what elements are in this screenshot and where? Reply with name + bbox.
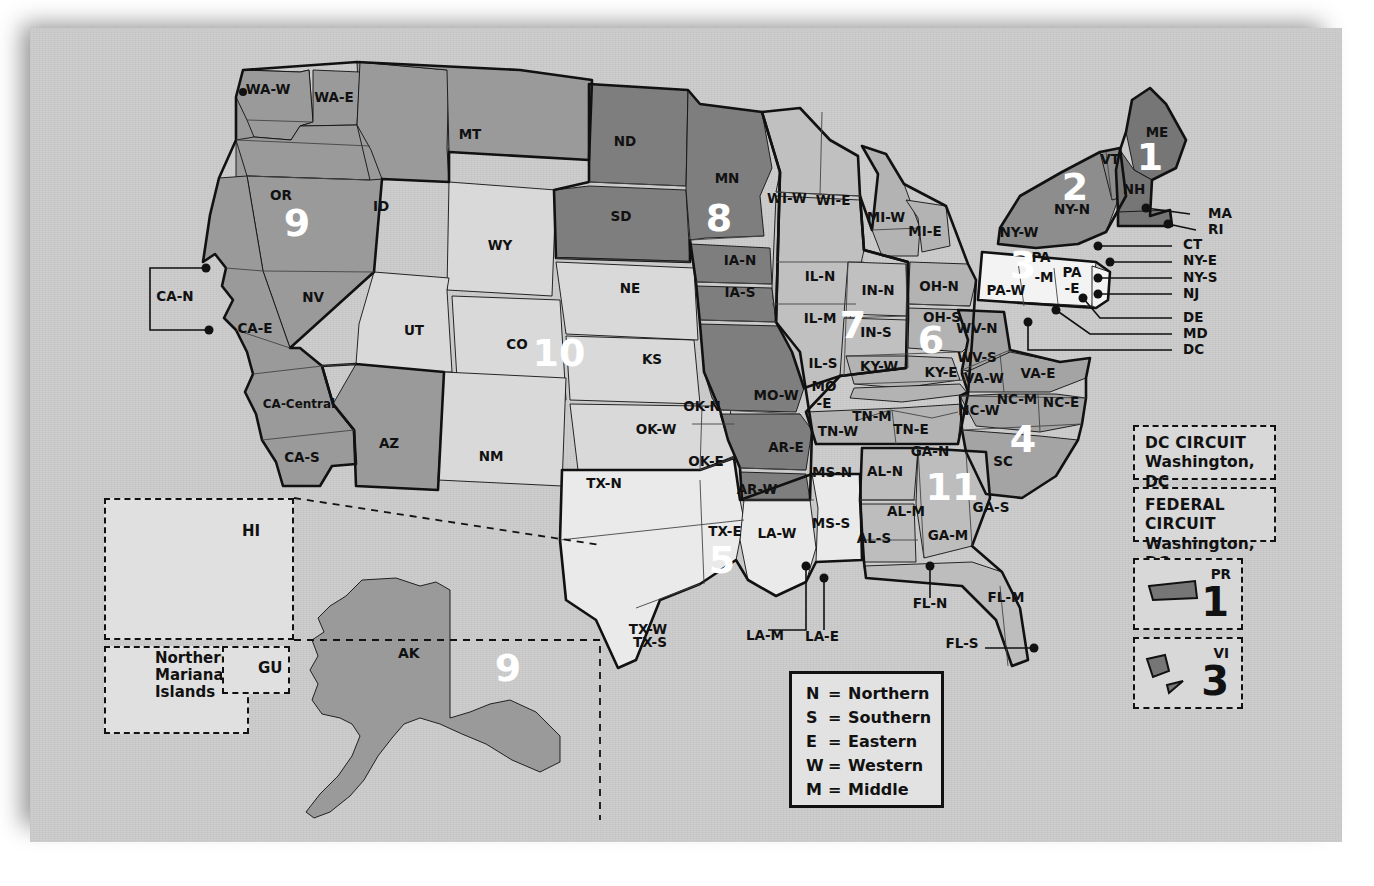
state-ne [556,262,698,340]
district-label-ia-n: IA-N [724,252,756,268]
district-label-wy: WY [488,237,513,253]
district-label-mi-e: MI-E [908,223,941,239]
key-equals: = [828,682,848,706]
district-label-az: AZ [379,435,399,451]
district-label-la-w: LA-W [758,525,797,541]
inset-label-ak: AK [398,645,420,661]
puerto-rico-shape [1145,578,1201,604]
key-word: Western [848,754,923,778]
district-label-ky-e: KY-E [924,364,957,380]
district-label-ok-w: OK-W [636,421,677,437]
callout-label-dc: DC [1183,341,1204,357]
callout-label-ny-s: NY-S [1183,269,1217,285]
district-label-ks: KS [642,351,662,367]
callout-label-ct: CT [1183,236,1203,252]
district-label-wi-e: WI-E [816,192,851,208]
key-row: N = Northern [806,682,941,706]
district-label-vt: VT [1100,151,1120,167]
district-label-oh-n: OH-N [919,278,959,294]
virgin-islands-box: VI 3 [1133,637,1243,709]
district-label-mo: MO [812,378,837,394]
district-label-nc-e: NC-E [1043,394,1079,410]
key-equals: = [828,730,848,754]
district-label-al-m: AL-M [887,503,925,519]
district-label-tx-s: TX-S [633,634,667,650]
district-label-ky-w: KY-W [860,358,898,374]
district-label-nd: ND [614,133,637,149]
district-label-pa: PA [1062,264,1082,280]
abbreviation-key-box: N = Northern S = Southern E = Eastern W … [789,671,944,808]
circuit-number-11-11: 11 [926,465,979,509]
district-label-la-e: LA-E [805,628,839,644]
vi-circuit-number: 3 [1201,661,1229,701]
district-label-il-s: IL-S [809,355,838,371]
district-label-va-e: VA-E [1021,365,1056,381]
key-word: Eastern [848,730,917,754]
district-label-il-m: IL-M [804,310,837,326]
callout-label-de: DE [1183,309,1203,325]
district-label-il-n: IL-N [805,268,836,284]
dc-circuit-box: DC CIRCUIT Washington, DC [1133,425,1276,480]
district-label-ca-n: CA-N [156,288,193,304]
district-label-mo-w: MO-W [753,387,798,403]
district-label-wa-e: WA-E [314,89,354,105]
circuit-number-9-8: 9 [284,201,310,245]
district-label-nh: NH [1123,181,1146,197]
callout-label-layer: MARICTNY-ENY-SNJDEMDDC [1183,205,1232,357]
callout-label-md: MD [1183,325,1208,341]
key-abbr: S [806,706,828,730]
district-label-va-w: VA-W [964,370,1004,386]
figure-root: 12345678991011 WA-WWA-EORIDMTNDSDMNWYNVC… [0,0,1374,886]
district-label--m: -M [1034,269,1053,285]
district-label-tx-n: TX-N [586,475,621,491]
callout-label-ma: MA [1208,205,1232,221]
district-label-al-s: AL-S [857,530,891,546]
district-label-ne: NE [620,280,641,296]
district-label-wv-n: WV-N [956,320,997,336]
callout-label-ri: RI [1208,221,1223,237]
district-label-tn-e: TN-E [893,421,928,437]
key-abbr: M [806,778,828,802]
district-label-ca-s: CA-S [284,449,320,465]
district-label-in-s: IN-S [860,324,892,340]
district-label-ga-m: GA-M [928,527,969,543]
inset-label-hi: HI [242,522,260,540]
district-label-wa-w: WA-W [246,81,291,97]
district-label-ar-e: AR-E [768,439,804,455]
district-label-mn: MN [715,170,740,186]
key-equals: = [828,706,848,730]
district-label-ms-s: MS-S [812,515,850,531]
key-row: M = Middle [806,778,941,802]
district-label-or: OR [270,187,292,203]
district-label-ny-w: NY-W [1000,224,1039,240]
district-label-sc: SC [993,453,1013,469]
district-label-ms-n: MS-N [812,464,852,480]
key-word: Middle [848,778,909,802]
district-label-fl-n: FL-N [913,595,948,611]
hawaii-inset-box [104,498,294,640]
alaska-inset-shape [306,578,560,818]
district-label-tn-m: TN-M [852,408,892,424]
circuit-number-5-4: 5 [709,538,735,582]
inset-label-gu: GU [258,659,283,677]
federal-circuit-box: FEDERAL CIRCUIT Washington, DC [1133,487,1276,542]
district-label-ok-e: OK-E [688,453,724,469]
district-label-mt: MT [459,126,482,142]
district-label-fl-m: FL-M [988,589,1025,605]
key-equals: = [828,778,848,802]
circuit-number-4-3: 4 [1010,417,1036,461]
district-label-oh-s: OH-S [923,309,961,325]
key-word: Northern [848,682,929,706]
district-label-wv-s: WV-S [957,349,997,365]
district-label-sd: SD [611,208,632,224]
key-row: E = Eastern [806,730,941,754]
district-label-ga-n: GA-N [911,443,949,459]
key-abbr: N [806,682,828,706]
callout-label-ny-e: NY-E [1183,252,1217,268]
pr-circuit-number: 1 [1201,582,1229,622]
key-row: S = Southern [806,706,941,730]
district-label-ca-central: CA-Central [263,397,335,411]
district-label-me: ME [1146,124,1169,140]
district-label-la-m: LA-M [746,627,784,643]
district-label-nc-m: NC-M [997,391,1038,407]
